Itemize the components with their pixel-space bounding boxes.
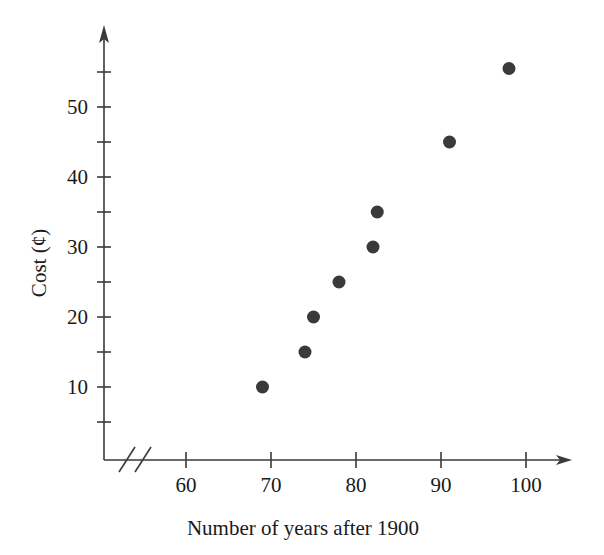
scatter-chart: 1020304050 60708090100 Number of years a… xyxy=(0,0,604,555)
x-axis-title: Number of years after 1900 xyxy=(187,516,419,540)
data-point xyxy=(256,381,269,394)
data-point xyxy=(299,346,312,359)
data-point-group xyxy=(256,62,516,394)
chart-canvas: 1020304050 60708090100 Number of years a… xyxy=(0,0,604,555)
x-axis xyxy=(104,455,572,465)
x-tick-label: 90 xyxy=(431,473,452,497)
data-point xyxy=(443,136,456,149)
y-axis xyxy=(99,25,109,460)
data-point xyxy=(307,311,320,324)
y-tick-label: 20 xyxy=(67,305,88,329)
data-point xyxy=(367,241,380,254)
data-point xyxy=(333,276,346,289)
y-tick-label: 40 xyxy=(67,165,88,189)
x-tick-label: 60 xyxy=(176,473,197,497)
y-tick-label-group: 1020304050 xyxy=(67,95,88,399)
y-tick-label: 30 xyxy=(67,235,88,259)
y-tick-label: 10 xyxy=(67,375,88,399)
data-point xyxy=(371,206,384,219)
x-tick-label: 100 xyxy=(510,473,542,497)
x-tick-label: 80 xyxy=(346,473,367,497)
x-tick-label: 70 xyxy=(261,473,282,497)
data-point xyxy=(503,62,516,75)
y-tick-label: 50 xyxy=(67,95,88,119)
x-tick-label-group: 60708090100 xyxy=(176,473,542,497)
y-axis-title: Cost (¢) xyxy=(27,229,51,297)
